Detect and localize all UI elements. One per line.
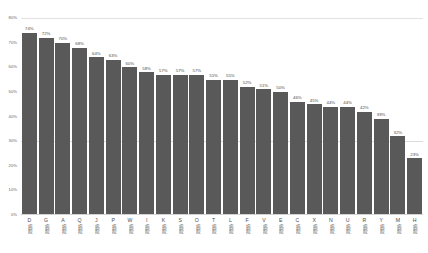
bar-value-label: 51% xyxy=(260,84,269,88)
x-tick-suffix: 病院 xyxy=(77,224,83,234)
x-tick-suffix: 病院 xyxy=(311,224,317,234)
bar-value-label: 57% xyxy=(193,69,202,73)
bar-rect[interactable] xyxy=(189,75,204,215)
bar-rect[interactable] xyxy=(173,75,188,215)
bar-value-label: 55% xyxy=(226,74,235,78)
bar-rect[interactable] xyxy=(156,75,171,215)
bar-item[interactable]: 39% xyxy=(374,18,389,215)
x-tick-label: J病院 xyxy=(89,217,104,251)
axis-baseline xyxy=(21,214,423,215)
bar-item[interactable]: 44% xyxy=(340,18,355,215)
bar-item[interactable]: 50% xyxy=(273,18,288,215)
bar-rect[interactable] xyxy=(323,107,338,215)
plot-area: 74%72%70%68%64%63%60%58%57%57%57%55%55%5… xyxy=(21,18,423,215)
bar-item[interactable]: 60% xyxy=(122,18,137,215)
x-tick-suffix: 病院 xyxy=(110,224,116,234)
bar-rect[interactable] xyxy=(273,92,288,215)
bar-item[interactable]: 44% xyxy=(323,18,338,215)
bar-rect[interactable] xyxy=(407,158,422,215)
x-tick-suffix: 病院 xyxy=(161,224,167,234)
x-tick-suffix: 病院 xyxy=(378,224,384,234)
bar-value-label: 74% xyxy=(25,27,34,31)
y-tick-label: 80% xyxy=(9,16,17,20)
y-tick-label: 30% xyxy=(9,139,17,143)
y-tick-label: 50% xyxy=(9,90,17,94)
bar-rect[interactable] xyxy=(340,107,355,215)
bar-value-label: 23% xyxy=(410,153,419,157)
x-tick-suffix: 病院 xyxy=(412,224,418,234)
bar-item[interactable]: 55% xyxy=(223,18,238,215)
bar-item[interactable]: 32% xyxy=(390,18,405,215)
y-tick-label: 60% xyxy=(9,65,17,69)
x-tick-label: U病院 xyxy=(340,217,355,251)
bar-item[interactable]: 74% xyxy=(22,18,37,215)
bar-item[interactable]: 57% xyxy=(156,18,171,215)
bar-item[interactable]: 57% xyxy=(189,18,204,215)
y-tick-label: 40% xyxy=(9,114,17,118)
x-tick-suffix: 病院 xyxy=(395,224,401,234)
bar-item[interactable]: 55% xyxy=(206,18,221,215)
bar-rect[interactable] xyxy=(374,119,389,215)
bar-rect[interactable] xyxy=(139,72,154,215)
bar-rect[interactable] xyxy=(290,102,305,215)
x-tick-label: M病院 xyxy=(390,217,405,251)
bar-series: 74%72%70%68%64%63%60%58%57%57%57%55%55%5… xyxy=(21,18,423,215)
bar-item[interactable]: 42% xyxy=(357,18,372,215)
bar-item[interactable]: 51% xyxy=(256,18,271,215)
bar-rect[interactable] xyxy=(223,80,238,215)
x-tick-suffix: 病院 xyxy=(194,224,200,234)
bar-item[interactable]: 57% xyxy=(173,18,188,215)
x-tick-label: I病院 xyxy=(139,217,154,251)
bar-value-label: 50% xyxy=(276,86,285,90)
bar-value-label: 68% xyxy=(75,42,84,46)
bar-item[interactable]: 72% xyxy=(39,18,54,215)
bar-rect[interactable] xyxy=(72,48,87,215)
bar-value-label: 39% xyxy=(377,113,386,117)
bar-rect[interactable] xyxy=(390,136,405,215)
bar-value-label: 70% xyxy=(59,37,68,41)
bar-rect[interactable] xyxy=(22,33,37,215)
bar-rect[interactable] xyxy=(89,57,104,215)
bar-rect[interactable] xyxy=(39,38,54,215)
bar-value-label: 44% xyxy=(327,101,336,105)
bar-item[interactable]: 63% xyxy=(106,18,121,215)
bar-value-label: 46% xyxy=(293,96,302,100)
bar-value-label: 58% xyxy=(142,67,151,71)
bar-rect[interactable] xyxy=(357,112,372,215)
x-tick-label: F病院 xyxy=(240,217,255,251)
bar-rect[interactable] xyxy=(256,89,271,215)
bar-value-label: 55% xyxy=(209,74,218,78)
x-tick-label: V病院 xyxy=(256,217,271,251)
bar-item[interactable]: 68% xyxy=(72,18,87,215)
bar-value-label: 44% xyxy=(343,101,352,105)
bar-rect[interactable] xyxy=(122,67,137,215)
bar-chart: 80%70%60%50%40%30%20%10%0% 74%72%70%68%6… xyxy=(0,0,428,253)
bar-rect[interactable] xyxy=(55,43,70,215)
bar-value-label: 63% xyxy=(109,54,118,58)
x-tick-label: T病院 xyxy=(206,217,221,251)
bar-item[interactable]: 70% xyxy=(55,18,70,215)
bar-item[interactable]: 52% xyxy=(240,18,255,215)
x-tick-suffix: 病院 xyxy=(211,224,217,234)
x-tick-suffix: 病院 xyxy=(295,224,301,234)
x-tick-label: C病院 xyxy=(290,217,305,251)
bar-item[interactable]: 64% xyxy=(89,18,104,215)
x-tick-suffix: 病院 xyxy=(328,224,334,234)
x-tick-label: Y病院 xyxy=(374,217,389,251)
bar-rect[interactable] xyxy=(206,80,221,215)
y-tick-label: 70% xyxy=(9,41,17,45)
bar-rect[interactable] xyxy=(307,104,322,215)
x-tick-suffix: 病院 xyxy=(127,224,133,234)
y-tick-label: 20% xyxy=(9,164,17,168)
x-tick-label: L病院 xyxy=(223,217,238,251)
bar-item[interactable]: 45% xyxy=(307,18,322,215)
x-tick-label: P病院 xyxy=(106,217,121,251)
bar-item[interactable]: 46% xyxy=(290,18,305,215)
bar-item[interactable]: 23% xyxy=(407,18,422,215)
bar-item[interactable]: 58% xyxy=(139,18,154,215)
x-tick-label: G病院 xyxy=(39,217,54,251)
bar-rect[interactable] xyxy=(240,87,255,215)
y-axis: 80%70%60%50%40%30%20%10%0% xyxy=(0,12,19,215)
bar-rect[interactable] xyxy=(106,60,121,215)
x-tick-suffix: 病院 xyxy=(261,224,267,234)
